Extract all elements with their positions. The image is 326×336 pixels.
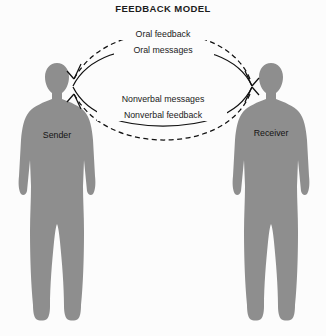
oral-messages-label: Oral messages [133,45,193,55]
oral-feedback-label: Oral feedback [136,29,191,39]
feedback-model-diagram: FEEDBACK MODEL Sender Receiver [0,0,326,336]
nonverbal-messages-label: Nonverbal messages [122,94,205,104]
sender-label: Sender [43,130,71,140]
diagram-title: FEEDBACK MODEL [115,3,210,14]
nonverbal-feedback-label: Nonverbal feedback [124,110,203,120]
receiver-silhouette [233,63,310,321]
receiver-label: Receiver [254,128,289,138]
diagram-canvas: FEEDBACK MODEL Sender Receiver [0,0,326,336]
receiver-figure: Receiver [233,63,310,321]
